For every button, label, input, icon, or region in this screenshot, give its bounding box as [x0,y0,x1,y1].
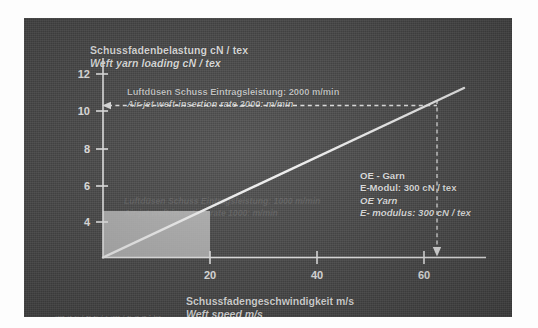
slide-panel: Schussfadenbelastung cN / tex Weft yarn … [24,18,512,317]
y-tick-labels: 12 10 8 6 4 [78,68,91,228]
y-tick-label-4: 4 [84,216,91,228]
chart-plot-area: 12 10 8 6 4 20 40 60 [24,18,512,317]
x-tick-labels: 20 40 60 [204,269,430,281]
data-series-line [103,88,464,258]
y-tick-label-12: 12 [78,68,90,80]
y-tick-label-8: 8 [84,143,90,155]
x-tick-label-60: 60 [418,269,430,281]
x-tick-label-20: 20 [204,269,216,281]
y-axis-ticks [96,74,108,222]
y-tick-label-10: 10 [78,105,90,117]
weft-speed-reference-arrow [433,247,441,257]
slide-image: Schussfadenbelastung cN / tex Weft yarn … [0,0,538,328]
y-tick-label-6: 6 [84,180,90,192]
x-tick-label-40: 40 [311,269,323,281]
